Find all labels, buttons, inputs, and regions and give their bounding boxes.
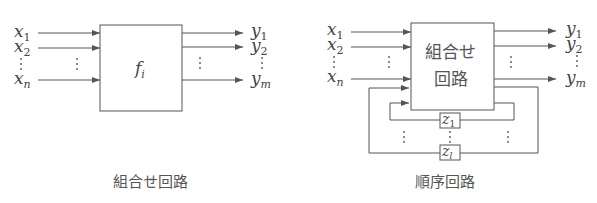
- seq-output-label-ellipsis: [576, 55, 578, 67]
- seq-input-arrow-ellipsis: [388, 56, 390, 68]
- output-arrow-ellipsis: [199, 57, 201, 69]
- seq-input-xn-label: xn: [327, 66, 344, 89]
- output-ym-label: ym: [250, 68, 271, 91]
- input-arrow-ellipsis: [76, 58, 78, 70]
- input-xn-label: xn: [14, 68, 31, 91]
- input-labels: x1 x2 xn: [14, 21, 31, 91]
- block-label-line1: 組合せ: [425, 42, 476, 62]
- circuit-diagrams: fi x1 x2 xn y1 y2 ym 組合せ回路: [0, 0, 597, 203]
- seq-output-arrow-ellipsis: [510, 56, 512, 68]
- seq-output-labels: y1 y2 ym: [565, 18, 586, 90]
- block-label-line2: 回路: [434, 69, 468, 89]
- sequential-circuit-diagram: 組合せ 回路 z1 zl x1 x2 xn: [327, 18, 586, 191]
- state-ellipsis: [403, 131, 509, 143]
- seq-output-ym-label: ym: [565, 67, 586, 90]
- combinational-block: [411, 23, 494, 110]
- output-labels: y1 y2 ym: [250, 20, 271, 91]
- output-label-ellipsis: [261, 57, 263, 69]
- combinational-circuit-diagram: fi x1 x2 xn y1 y2 ym 組合せ回路: [14, 20, 271, 191]
- sequential-caption: 順序回路: [415, 173, 475, 191]
- combinational-caption: 組合せ回路: [113, 173, 188, 191]
- seq-input-labels: x1 x2 xn: [327, 19, 344, 89]
